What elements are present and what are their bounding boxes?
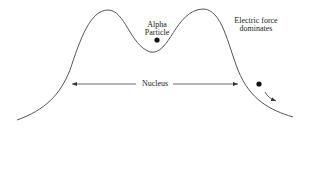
escaping-particle-dot	[256, 81, 261, 86]
escape-arrow	[265, 92, 276, 101]
alpha-particle-label-line2: Particle	[137, 29, 177, 37]
alpha-particle-label: Alpha Particle	[137, 21, 177, 37]
nucleus-label: Nucleus	[135, 80, 175, 88]
nucleus-label-text: Nucleus	[135, 80, 175, 88]
alpha-particle-dot	[154, 37, 159, 42]
electric-force-label-line2: dominates	[228, 25, 284, 33]
electric-force-label: Electric force dominates	[228, 17, 284, 33]
